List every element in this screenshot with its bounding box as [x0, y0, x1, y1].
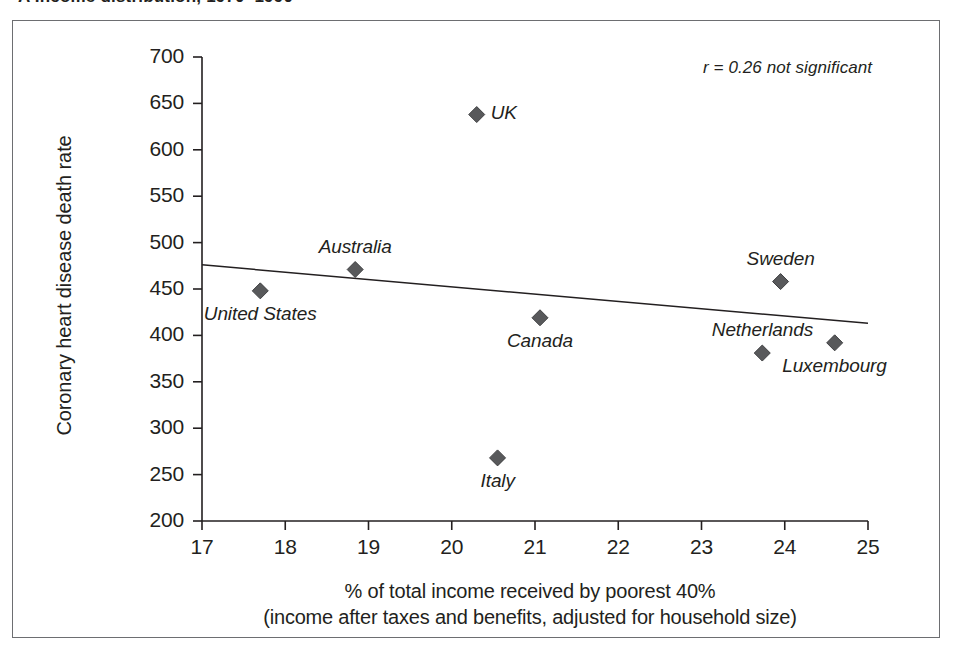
x-tick-label: 23	[677, 535, 727, 559]
y-tick-label: 400	[118, 322, 184, 346]
page-caption: A Income distribution, 1970–1990	[18, 0, 293, 7]
x-tick-label: 24	[760, 535, 810, 559]
y-axis-title: Coronary heart disease death rate	[53, 76, 76, 496]
data-point-label: Italy	[481, 470, 515, 492]
y-tick-label: 500	[118, 230, 184, 254]
x-axis-title: % of total income received by poorest 40…	[150, 578, 910, 630]
page-caption-strip: A Income distribution, 1970–1990	[0, 0, 953, 16]
y-tick-label: 650	[118, 90, 184, 114]
x-tick-label: 21	[510, 535, 560, 559]
x-tick-label: 25	[843, 535, 893, 559]
data-point-label: Australia	[319, 236, 392, 258]
x-tick-label: 22	[593, 535, 643, 559]
data-point-label: Luxembourg	[782, 355, 887, 377]
y-tick-label: 550	[118, 183, 184, 207]
correlation-annotation: r = 0.26 not significant	[703, 58, 872, 78]
y-tick-label: 250	[118, 462, 184, 486]
x-axis-title-line2: (income after taxes and benefits, adjust…	[150, 604, 910, 630]
x-tick-label: 18	[260, 535, 310, 559]
data-point-label: UK	[491, 102, 517, 124]
y-tick-label: 200	[118, 508, 184, 532]
y-tick-label: 700	[118, 44, 184, 68]
data-point-label: Sweden	[747, 248, 815, 270]
data-point-label: United States	[204, 303, 317, 325]
x-tick-label: 17	[177, 535, 227, 559]
y-tick-label: 600	[118, 137, 184, 161]
y-tick-label: 450	[118, 276, 184, 300]
x-tick-label: 19	[344, 535, 394, 559]
y-tick-label: 350	[118, 369, 184, 393]
data-point-label: Canada	[507, 330, 573, 352]
data-point-label: Netherlands	[712, 319, 813, 341]
x-axis-title-line1: % of total income received by poorest 40…	[150, 578, 910, 604]
x-tick-label: 20	[427, 535, 477, 559]
y-tick-label: 300	[118, 415, 184, 439]
